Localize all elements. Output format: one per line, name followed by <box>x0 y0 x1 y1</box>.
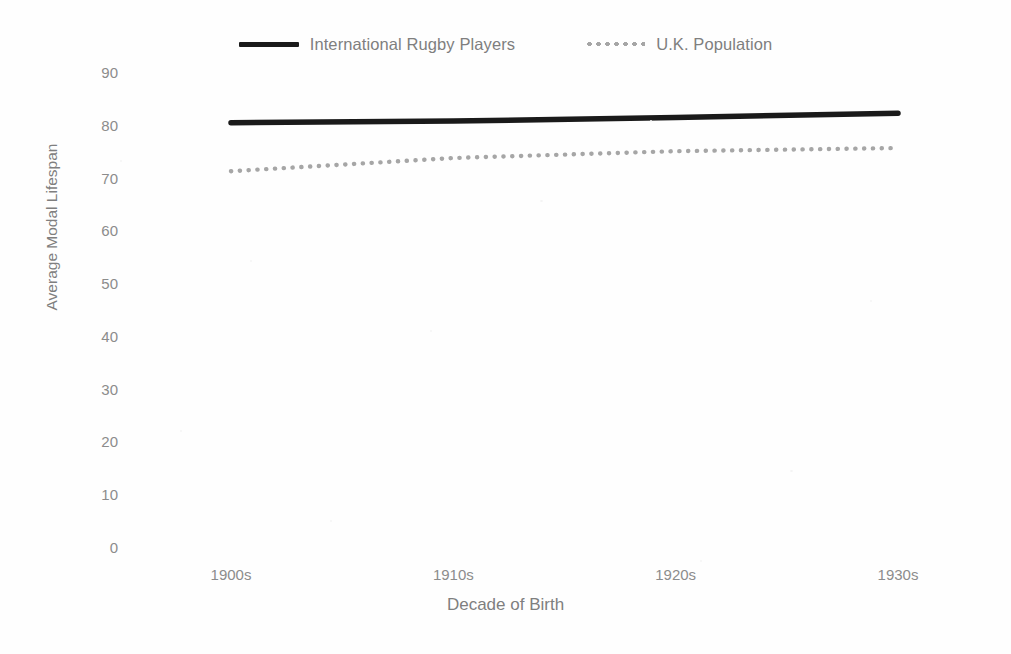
solid-line-swatch-icon <box>239 42 299 47</box>
y-axis-tick-70: 70 <box>66 171 118 186</box>
legend-item-uk-population[interactable]: U.K. Population <box>585 35 772 54</box>
chart-container: International Rugby Players U.K. Populat… <box>0 0 1011 654</box>
scan-speckle <box>430 330 432 332</box>
y-axis-tick-80: 80 <box>66 118 118 133</box>
scan-speckle <box>700 560 702 562</box>
scan-speckle <box>330 520 332 522</box>
scan-speckle <box>250 260 252 262</box>
y-axis-title: Average Modal Lifespan <box>43 97 61 357</box>
x-axis-tick-1920s: 1920s <box>655 566 696 583</box>
scan-speckle <box>650 120 652 122</box>
scan-speckle <box>120 160 122 162</box>
plot-area <box>0 0 1011 654</box>
legend-item-rugby[interactable]: International Rugby Players <box>239 35 515 54</box>
scan-speckle <box>790 470 793 472</box>
y-axis-tick-60: 60 <box>66 223 118 238</box>
dotted-line-swatch-icon <box>585 42 645 46</box>
x-axis-tick-1910s: 1910s <box>433 566 474 583</box>
x-axis-tick-1930s: 1930s <box>878 566 919 583</box>
y-axis-tick-0: 0 <box>66 540 118 555</box>
x-axis-tick-1900s: 1900s <box>211 566 252 583</box>
y-axis-tick-90: 90 <box>66 65 118 80</box>
legend-label-uk-population: U.K. Population <box>656 35 772 54</box>
y-axis-tick-20: 20 <box>66 434 118 449</box>
scan-speckle <box>870 300 872 302</box>
x-axis-tick-labels: 1900s1910s1920s1930s <box>0 566 1011 588</box>
scan-speckle <box>180 430 182 432</box>
y-axis-tick-50: 50 <box>66 276 118 291</box>
x-axis-title: Decade of Birth <box>0 595 1011 615</box>
y-axis-tick-40: 40 <box>66 329 118 344</box>
legend-label-rugby: International Rugby Players <box>310 35 515 54</box>
y-axis-tick-10: 10 <box>66 487 118 502</box>
scan-speckle <box>540 200 543 202</box>
y-axis-tick-30: 30 <box>66 382 118 397</box>
y-axis-tick-labels: 9080706050403020100 <box>66 0 118 654</box>
series-line-rugby <box>231 113 898 123</box>
series-line-uk-population <box>231 148 898 171</box>
chart-legend: International Rugby Players U.K. Populat… <box>0 28 1011 60</box>
